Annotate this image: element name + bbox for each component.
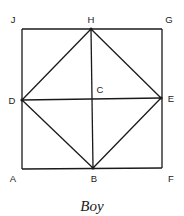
point-label-H: H: [88, 14, 95, 25]
point-label-E: E: [168, 93, 174, 104]
vertex-dot-E: [159, 96, 162, 99]
geometry-diagram: JHGCDEABF: [0, 0, 184, 216]
vertex-dot-D: [20, 98, 23, 101]
point-label-C: C: [97, 84, 104, 95]
point-label-D: D: [9, 95, 16, 106]
diagram-lines: [22, 29, 162, 169]
segment-DH: [22, 29, 91, 100]
point-label-F: F: [168, 173, 174, 184]
figure-caption: Boy: [0, 198, 184, 215]
segment-BD: [22, 100, 93, 168]
point-label-B: B: [91, 173, 97, 184]
point-label-G: G: [165, 14, 172, 25]
point-label-A: A: [10, 173, 17, 184]
vertex-dot-B: [91, 166, 94, 169]
segment-EB: [93, 98, 161, 168]
point-label-J: J: [11, 14, 16, 25]
vertex-dot-H: [89, 27, 92, 30]
